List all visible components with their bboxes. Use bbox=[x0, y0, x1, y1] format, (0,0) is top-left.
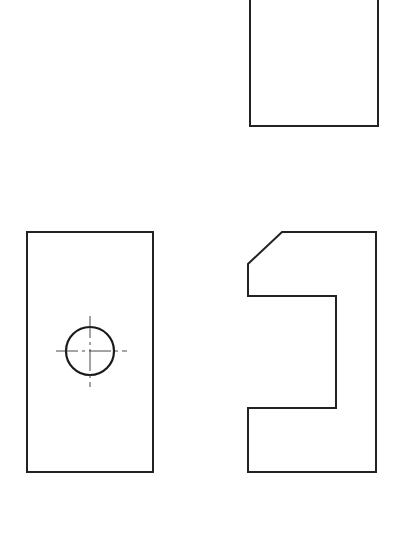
technical-drawing bbox=[0, 0, 400, 539]
side-view-profile bbox=[248, 232, 376, 472]
top-view-rectangle bbox=[250, 0, 378, 126]
